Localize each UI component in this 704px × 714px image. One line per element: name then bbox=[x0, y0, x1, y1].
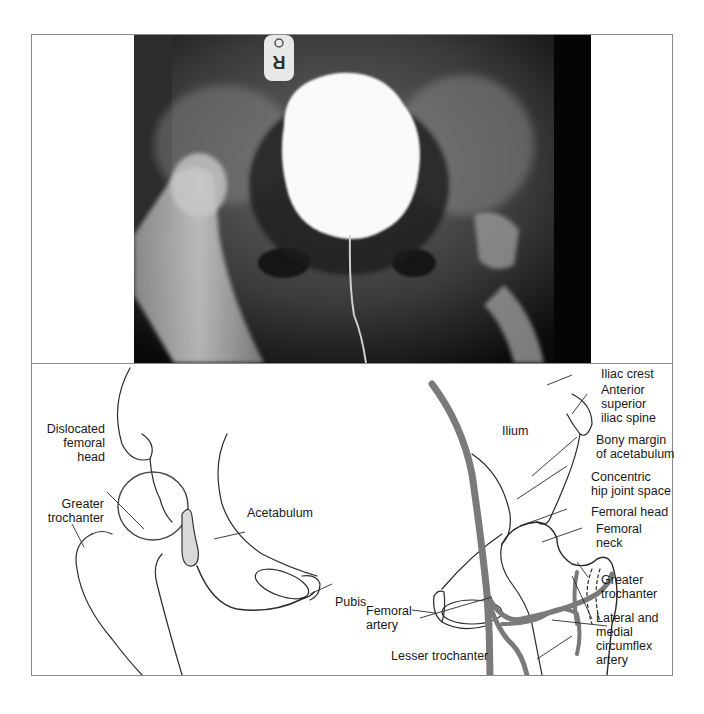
label-iliac-crest: Iliac crest bbox=[601, 367, 654, 381]
label-greater-trochanter-right: Greater trochanter bbox=[601, 573, 657, 601]
label-anterior-superior-iliac-spine: Anterior superior iliac spine bbox=[601, 383, 656, 425]
label-dislocated-femoral-head: Dislocated femoral head bbox=[32, 422, 105, 464]
label-greater-trochanter-left: Greater trochanter bbox=[32, 497, 104, 525]
label-ilium: Ilium bbox=[502, 424, 528, 438]
pelvic-xray: R bbox=[134, 35, 591, 363]
label-bony-margin-acetabulum: Bony margin of acetabulum bbox=[596, 433, 675, 461]
label-pubis-left: Pubis bbox=[335, 595, 366, 609]
label-femoral-artery: Femoral artery bbox=[366, 604, 412, 632]
label-circumflex-artery: Lateral and medial circumflex artery bbox=[596, 611, 659, 667]
anatomy-diagram: Dislocated femoral head Greater trochant… bbox=[32, 364, 672, 675]
figure-frame: R bbox=[31, 34, 673, 676]
xray-image: R bbox=[134, 35, 591, 363]
label-acetabulum: Acetabulum bbox=[247, 506, 313, 520]
label-femoral-neck: Femoral neck bbox=[596, 522, 642, 550]
diagram-drawing bbox=[32, 364, 672, 675]
marker-letter: R bbox=[273, 52, 286, 72]
label-femoral-head: Femoral head bbox=[591, 505, 668, 519]
label-concentric-hip-joint-space: Concentric hip joint space bbox=[591, 470, 671, 498]
label-lesser-trochanter: Lesser trochanter bbox=[391, 649, 488, 663]
